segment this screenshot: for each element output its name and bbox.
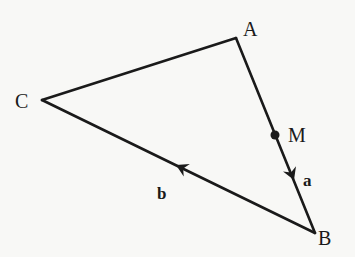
label-vector-b: b [157,184,166,203]
label-m-point: M [288,124,306,146]
arrow-a-icon [283,166,300,182]
label-b-vertex: B [318,227,331,249]
arrow-b-icon [173,159,190,177]
label-a-vertex: A [243,18,258,40]
triangle-diagram: A C B M a b [0,0,355,257]
label-vector-a: a [303,171,312,190]
segment-ca [42,38,236,100]
point-m-dot [271,131,280,140]
diagram-svg: A C B M a b [0,0,355,257]
label-c-vertex: C [15,90,28,112]
